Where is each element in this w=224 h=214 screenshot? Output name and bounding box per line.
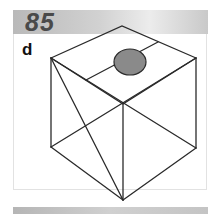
footer-bar — [13, 207, 208, 214]
circle-shape — [114, 49, 146, 75]
bottom-right-edge — [123, 148, 196, 200]
bottom-left-edge — [51, 147, 123, 200]
cube-figure — [0, 0, 224, 214]
